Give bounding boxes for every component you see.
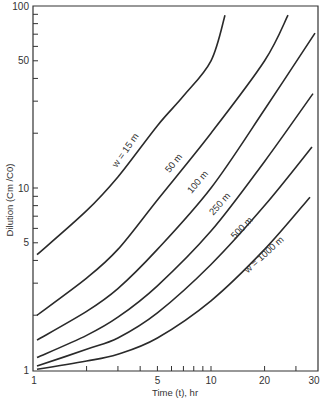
y-axis-ticks xyxy=(33,14,38,315)
plot-border xyxy=(33,6,318,371)
y-tick-label: 5 xyxy=(23,237,29,248)
y-tick-label: 50 xyxy=(18,55,30,66)
x-tick-label: 30 xyxy=(308,375,320,386)
x-axis-ticks xyxy=(87,366,296,371)
curve-label: 100 m xyxy=(185,168,210,195)
dilution-vs-time-chart: 15102030 151050100 Time (t), hr Dilution… xyxy=(0,0,325,404)
x-tick-label: 1 xyxy=(31,375,37,386)
x-tick-label: 5 xyxy=(155,375,161,386)
curve-label: w = 1000 m xyxy=(241,234,286,276)
y-tick-label: 1 xyxy=(23,365,29,376)
y-tick-label: 100 xyxy=(12,1,29,12)
curve-labels: w = 15 m50 m100 m250 m500 mw = 1000 m xyxy=(109,131,286,276)
plot-frame xyxy=(33,6,318,371)
y-tick-label: 10 xyxy=(18,183,30,194)
y-axis-title: Dilution (Cm /C0) xyxy=(4,164,15,237)
x-tick-label: 10 xyxy=(205,375,217,386)
curve-100m xyxy=(37,33,315,340)
x-axis-title: Time (t), hr xyxy=(152,387,198,398)
x-tick-label: 20 xyxy=(259,375,271,386)
curve-label: 500 m xyxy=(228,214,254,241)
curve-1000m xyxy=(37,197,310,369)
curve-250m xyxy=(37,94,313,358)
curve-label: w = 15 m xyxy=(109,131,141,170)
x-axis-tick-labels: 15102030 xyxy=(31,375,320,386)
curve-label: 250 m xyxy=(206,190,232,217)
dilution-curves xyxy=(37,15,315,369)
